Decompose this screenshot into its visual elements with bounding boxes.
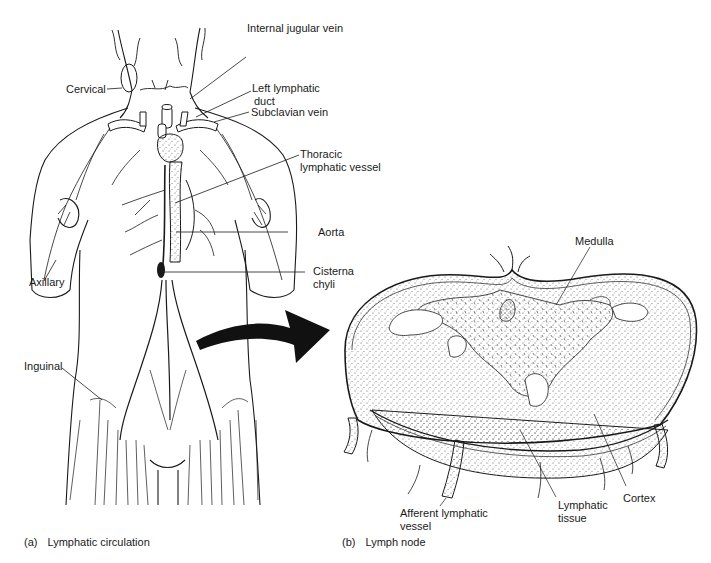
label-internal-jugular-vein: Internal jugular vein bbox=[247, 22, 343, 34]
caption-a-tag: (a) bbox=[24, 536, 37, 548]
label-lymphatic-tissue-line1: Lymphatic bbox=[558, 499, 608, 511]
pointer-arrow-icon bbox=[196, 310, 330, 363]
label-thoracic-line1: Thoracic bbox=[300, 148, 342, 160]
label-cervical: Cervical bbox=[66, 83, 106, 95]
thoracic-duct bbox=[162, 165, 165, 275]
cisterna-chyli bbox=[157, 262, 165, 278]
leg-branches bbox=[70, 370, 258, 505]
neck-lymph-vessels bbox=[112, 28, 205, 90]
label-afferent-lymphatic-vessel-line1: Afferent lymphatic bbox=[400, 507, 488, 519]
label-thoracic-line2: lymphatic vessel bbox=[300, 161, 381, 173]
label-axillary: Axillary bbox=[29, 276, 64, 288]
label-lymphatic-tissue-line2: tissue bbox=[558, 512, 587, 524]
label-afferent-lymphatic-vessel-line2: vessel bbox=[400, 520, 431, 532]
label-cisterna-chyli-line1: Cisterna bbox=[313, 265, 354, 277]
efferent-vessel bbox=[490, 246, 530, 272]
label-left-lymphatic-duct-line1: Left lymphatic bbox=[252, 82, 320, 94]
label-subclavian-vein: Subclavian vein bbox=[251, 106, 328, 118]
leg-lymph-vessels bbox=[120, 280, 218, 440]
caption-panel-a: (a)Lymphatic circulation bbox=[24, 536, 150, 548]
caption-a-text: Lymphatic circulation bbox=[47, 536, 149, 548]
caption-panel-b: (b)Lymph node bbox=[342, 536, 426, 548]
label-inguinal: Inguinal bbox=[24, 360, 63, 372]
lymphatic-diagram bbox=[0, 0, 711, 563]
label-cortex: Cortex bbox=[623, 492, 655, 504]
label-aorta: Aorta bbox=[318, 226, 344, 238]
label-cisterna-chyli-line2: chyli bbox=[313, 278, 335, 290]
label-medulla: Medulla bbox=[575, 235, 614, 247]
caption-b-tag: (b) bbox=[342, 536, 355, 548]
caption-b-text: Lymph node bbox=[365, 536, 425, 548]
lymph-node bbox=[344, 246, 697, 498]
